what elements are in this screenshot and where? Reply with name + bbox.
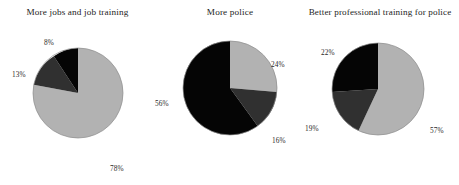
chart-title: Better professional training for police <box>303 7 457 18</box>
pie-label-56: 56% <box>155 99 169 108</box>
pie-label-78: 78% <box>110 164 124 173</box>
pie-chart-3 <box>331 42 425 136</box>
chart-title: More police <box>155 7 305 18</box>
pie-slice-22 <box>332 43 378 92</box>
pie-chart-2 <box>182 40 278 136</box>
pie-label-24: 24% <box>271 60 285 69</box>
pie-slice-78 <box>33 48 123 138</box>
pie-svg-2 <box>182 40 278 136</box>
pie-label-8: 8% <box>44 38 54 47</box>
pie-svg-1 <box>32 47 124 139</box>
chart-panel-better-training: Better professional training for police … <box>305 0 459 185</box>
pie-label-16: 16% <box>272 136 286 145</box>
pie-label-57: 57% <box>430 126 444 135</box>
pie-svg-3 <box>331 42 425 136</box>
pie-label-13: 13% <box>12 70 26 79</box>
chart-panel-more-police: More police 24% 16% 56% <box>155 0 305 185</box>
chart-panel-more-jobs: More jobs and job training 8% 13% 78% <box>0 0 155 185</box>
pie-chart-1 <box>32 47 124 139</box>
pie-slice-24 <box>230 41 277 92</box>
chart-title: More jobs and job training <box>0 7 155 18</box>
pie-label-22: 22% <box>321 48 335 57</box>
pie-label-19: 19% <box>305 124 319 133</box>
pie-chart-figure: More jobs and job training 8% 13% 78% Mo… <box>0 0 459 185</box>
